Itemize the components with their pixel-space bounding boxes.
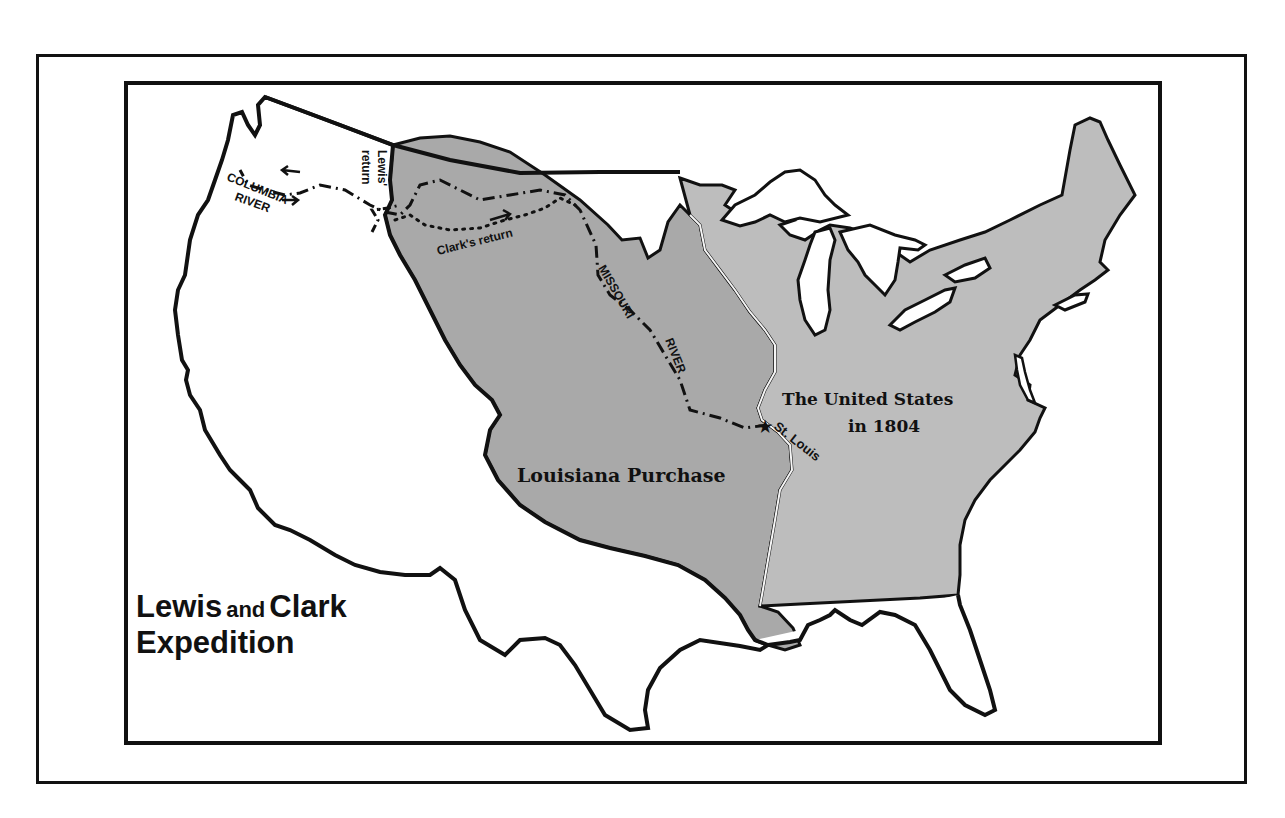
title-expedition: Expedition	[136, 626, 347, 659]
gulf-coast	[755, 595, 995, 715]
title-and: and	[226, 597, 265, 622]
st-louis-star-icon: ★	[758, 418, 773, 435]
label-us-1804-line1: The United States	[782, 389, 953, 409]
label-louisiana-purchase: Louisiana Purchase	[517, 464, 726, 486]
lake-superior	[722, 170, 848, 226]
label-lewis: Lewis'	[375, 150, 389, 186]
title-line-1: LewisandClark	[136, 590, 347, 626]
label-lewis-return: return	[359, 150, 373, 185]
title-lewis: Lewis	[136, 589, 222, 624]
label-us-1804-line2: in 1804	[848, 416, 920, 436]
map-title: LewisandClark Expedition	[136, 590, 347, 659]
map-canvas: ★ St. Louis MISSOURI RIVER COLUMBIA RIVE…	[0, 0, 1285, 818]
title-clark: Clark	[269, 589, 347, 624]
